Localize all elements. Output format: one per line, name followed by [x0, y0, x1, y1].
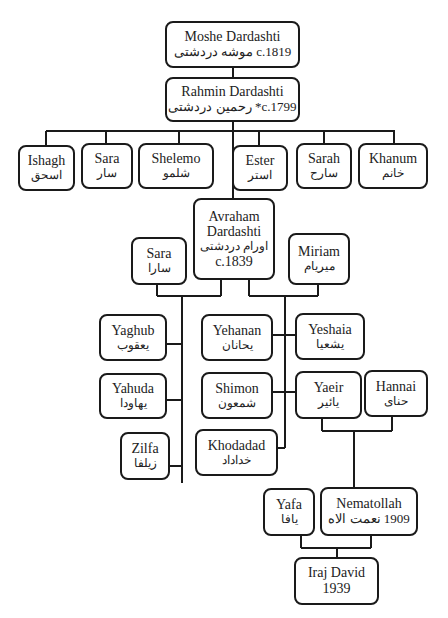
- name-persian: میریام: [304, 260, 335, 273]
- name-english: Yaghub: [112, 323, 155, 339]
- name-persian: حنای: [384, 395, 408, 408]
- name-persian-year: c.1799* رحمین دردشتی: [168, 100, 296, 115]
- name-english: Hannai: [376, 379, 416, 395]
- person-khodadad: Khodadad خداداد: [195, 429, 278, 476]
- name-english-last: Dardashti: [207, 224, 261, 240]
- name-persian: اورام دردشتی: [200, 240, 268, 253]
- name-english: Yeshaia: [308, 322, 352, 338]
- person-sara-wife: Sara سارا: [131, 237, 187, 285]
- name-persian: اسحق: [31, 169, 62, 182]
- name-english: Yahuda: [112, 381, 154, 397]
- name-english: Nematollah: [336, 496, 401, 512]
- name-english-first: Avraham: [208, 209, 259, 225]
- name-english: Rahmin Dardashti: [181, 84, 283, 100]
- name-english: Yehanan: [213, 323, 261, 339]
- person-yaeir: Yaeir یائیر: [295, 371, 362, 419]
- name-persian: یحانان: [222, 339, 253, 352]
- name-persian: سارا: [148, 262, 171, 275]
- family-tree-diagram: Moshe Dardashti c.1819 موشه دردشتی Rahmi…: [0, 0, 448, 618]
- person-ester: Ester استر: [232, 145, 288, 191]
- name-english: Sarah: [308, 151, 340, 167]
- name-persian: خانم: [382, 167, 404, 180]
- name-english: Shelemo: [152, 151, 201, 167]
- name-english: Khodadad: [208, 438, 266, 454]
- name-persian: یهاودا: [120, 397, 147, 410]
- name-persian-year: 1909 نعمت الاه: [328, 512, 410, 527]
- person-yafa: Yafa یافا: [263, 488, 315, 536]
- person-moshe-dardashti: Moshe Dardashti c.1819 موشه دردشتی: [165, 21, 300, 68]
- person-yehanan: Yehanan یحانان: [201, 314, 273, 361]
- birth-year: c.1839: [215, 254, 253, 270]
- name-persian: سارح: [310, 167, 338, 180]
- name-english: Moshe Dardashti: [184, 29, 280, 45]
- person-yahuda: Yahuda یهاودا: [99, 373, 167, 419]
- name-english: Khanum: [369, 151, 417, 167]
- name-persian: یعقوب: [117, 339, 149, 352]
- person-avraham-dardashti: Avraham Dardashti اورام دردشتی c.1839: [193, 198, 275, 280]
- name-persian: شمعون: [218, 397, 256, 410]
- person-yaghub: Yaghub یعقوب: [99, 314, 167, 361]
- name-persian: یائیر: [318, 396, 339, 409]
- name-persian: استر: [248, 169, 272, 182]
- person-khanum: Khanum خانم: [358, 143, 428, 189]
- person-ishagh: Ishagh اسحق: [18, 145, 75, 191]
- person-yeshaia: Yeshaia یشعیا: [295, 313, 365, 360]
- person-iraj-david: Iraj David 1939: [294, 557, 379, 605]
- person-sara: Sara سار: [81, 143, 133, 189]
- person-rahmin-dardashti: Rahmin Dardashti c.1799* رحمین دردشتی: [165, 77, 300, 122]
- person-sarah: Sarah سارح: [296, 143, 352, 189]
- name-persian: خداداد: [222, 454, 251, 467]
- name-english: Iraj David: [308, 565, 365, 581]
- name-persian: زیلفا: [134, 457, 157, 470]
- name-persian: یافا: [281, 513, 298, 526]
- name-english: Ishagh: [28, 153, 65, 169]
- name-english: Yafa: [276, 497, 302, 513]
- person-hannai: Hannai حنای: [364, 370, 428, 417]
- name-persian: سار: [97, 167, 117, 180]
- name-english: Zilfa: [131, 441, 158, 457]
- person-nematollah: Nematollah 1909 نعمت الاه: [320, 487, 418, 536]
- name-persian: یشعیا: [316, 338, 344, 351]
- name-english: Miriam: [298, 244, 340, 260]
- name-english: Sara: [95, 151, 120, 167]
- name-persian-year: c.1819 موشه دردشتی: [174, 45, 292, 60]
- name-english: Shimon: [215, 381, 259, 397]
- name-persian: شلمو: [163, 167, 190, 180]
- person-miriam: Miriam میریام: [288, 233, 350, 285]
- name-english: Sara: [147, 246, 172, 262]
- person-shimon: Shimon شمعون: [201, 372, 273, 419]
- person-zilfa: Zilfa زیلفا: [120, 432, 170, 480]
- name-english: Ester: [246, 153, 275, 169]
- person-shelemo: Shelemo شلمو: [138, 143, 214, 189]
- name-english: Yaeir: [314, 380, 344, 396]
- birth-year: 1939: [323, 581, 351, 597]
